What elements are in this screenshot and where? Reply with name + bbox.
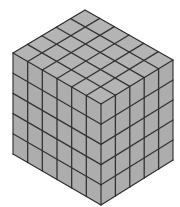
cube-block-diagram [0,0,180,207]
isometric-cube-block [0,0,180,207]
